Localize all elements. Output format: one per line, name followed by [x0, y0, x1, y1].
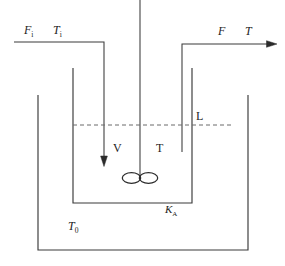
outlet-pipe: [182, 44, 268, 152]
gain-constant-label: KA: [165, 204, 177, 215]
jacket-temperature-label: T0: [68, 220, 78, 232]
schematic-drawing: [0, 0, 285, 266]
outlet-temperature-label: T: [245, 25, 252, 37]
volume-label: V: [113, 142, 122, 154]
inlet-flow-label: Fi: [24, 24, 33, 36]
liquid-level-label: L: [196, 110, 203, 122]
reactor-diagram: Fi Ti F T L V T KA T0: [0, 0, 285, 266]
outlet-flow-label: F: [218, 25, 225, 37]
reactor-temperature-label: T: [156, 142, 163, 154]
outlet-flow-arrow: [267, 41, 278, 48]
inlet-temperature-label: Ti: [53, 24, 62, 36]
inlet-pipe: [14, 42, 104, 158]
inlet-flow-arrow: [101, 156, 108, 167]
